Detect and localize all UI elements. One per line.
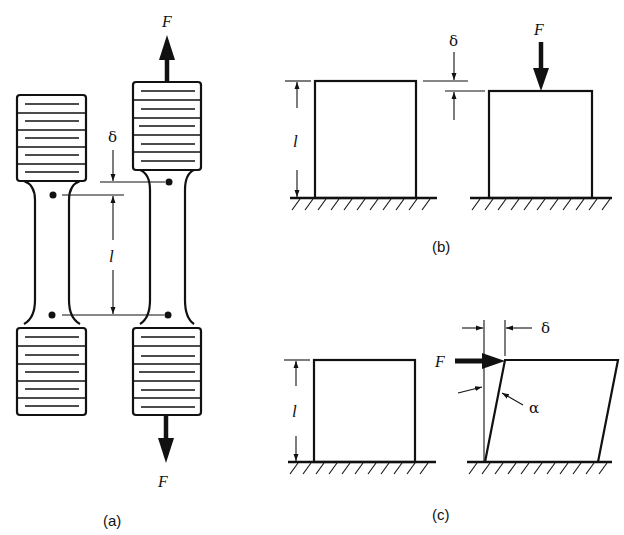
dimension-lines [284,328,532,461]
block-sheared [485,360,618,462]
force-arrow-up [159,35,175,82]
specimen-unloaded [17,95,86,415]
panel-b: l δ F (b) [285,21,612,255]
grip-lines [17,104,86,172]
angle-label: α [529,399,539,417]
panel-c: l δ α F (c) [284,319,618,523]
neck-right-edge [185,170,194,324]
neck-right-edge [69,181,80,324]
gauge-mark-top [166,179,173,186]
gauge-mark-bottom [165,312,172,319]
figure-canvas: F F δ l (a) [0,0,624,535]
elongation-label: δ [108,128,117,146]
length-label: l [292,402,297,421]
force-label-bottom: F [157,473,168,490]
gauge-mark-top [50,192,57,199]
neck-left-edge [24,181,35,324]
ground-left [288,462,436,474]
force-label: F [533,21,544,38]
deformation-label: δ [449,32,458,50]
panel-a: F F δ l (a) [17,13,201,529]
ground-right [467,462,612,474]
ground-left [290,198,437,210]
block-compressed [489,91,592,198]
panel-b-caption: (b) [432,238,450,255]
gauge-length-label: l [109,247,114,266]
displacement-label: δ [541,319,550,337]
force-arrow-down [158,415,174,463]
force-label: F [434,353,445,370]
specimen-loaded [133,82,201,415]
ground-right [470,198,612,210]
neck-left-edge [140,170,150,324]
gauge-mark-bottom [49,312,56,319]
force-arrow-down [533,42,549,91]
block-unloaded [315,81,416,198]
panel-a-caption: (a) [103,512,121,529]
panel-c-caption: (c) [432,506,450,523]
block-undeformed [314,360,415,462]
force-arrow-right [455,353,505,369]
force-label-top: F [161,13,172,30]
length-label: l [293,132,298,151]
